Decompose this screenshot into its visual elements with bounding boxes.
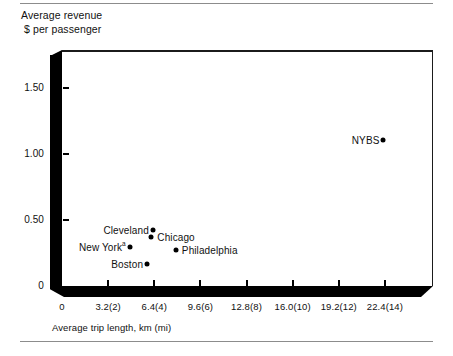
data-point-label: Chicago [157,232,194,243]
data-point [173,248,178,253]
x-axis-tick [246,280,248,286]
data-point [150,227,155,232]
x-axis-tick [153,280,155,286]
y-axis-tick [63,153,69,155]
data-point-label: NYBS [352,135,380,146]
x-axis-tick [338,280,340,286]
y-axis-tick-label: 0.50 [0,214,44,225]
x-axis-tick [384,280,386,286]
plot-frame-top-border [62,50,433,52]
data-point-label: Philadelphia [182,245,238,256]
x-axis-tick-label: 0 [59,301,64,312]
x-axis-tick-label: 6.4(4) [142,301,167,312]
data-point [149,235,154,240]
y-axis-bar [50,55,62,286]
x-axis-title: Average trip length, km (mi) [52,322,171,333]
y-axis-tick-label: 1.00 [0,148,44,159]
top-divider-rule [20,3,433,4]
y-axis-tick [63,87,69,89]
bottom-divider-rule [20,341,433,342]
x-axis-tick [292,280,294,286]
y-axis-title-line1: Average revenue [21,9,102,21]
plot-frame-right-border [432,50,434,286]
y-axis-title-line2: $ per passenger [21,23,101,35]
x-axis-bar [50,286,433,297]
x-axis-tick-label: 16.0(10) [275,301,311,312]
y-axis-tick-label: 1.50 [0,82,44,93]
y-axis-tick-label: 0 [0,280,44,291]
x-axis-tick [199,280,201,286]
data-point-label: New Yorka [79,242,126,253]
x-axis-tick-label: 22.4(14) [367,301,403,312]
y-axis-title: Average revenue $ per passenger [21,9,102,36]
y-axis-tick [63,219,69,221]
data-point [127,245,132,250]
x-axis-tick [107,280,109,286]
data-point-label-superscript: a [122,240,126,247]
x-axis-tick-label: 3.2(2) [95,301,120,312]
x-axis-tick-label: 19.2(12) [321,301,357,312]
data-point [145,262,150,267]
data-point-label: Cleveland [103,224,148,235]
data-point [381,138,386,143]
x-axis-tick-label: 9.6(6) [188,301,213,312]
x-axis-tick-label: 12.8(8) [231,301,262,312]
data-point-label: Boston [111,259,143,270]
plot-area: ClevelandChicagoNew YorkaPhiladelphiaBos… [50,50,433,288]
